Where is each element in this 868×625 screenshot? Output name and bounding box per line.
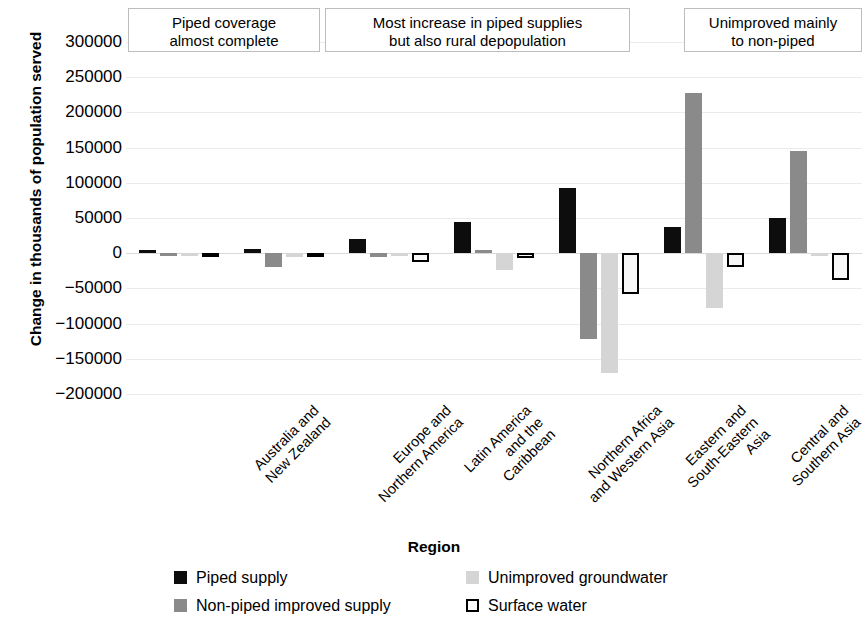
bar-nonpiped — [475, 250, 492, 254]
bar-unimproved — [391, 253, 408, 256]
legend-item[interactable]: Non-piped improved supply — [174, 597, 391, 615]
bar-group — [652, 42, 757, 394]
bar-group — [336, 42, 441, 394]
legend-swatch-icon — [466, 571, 479, 584]
plot-area — [126, 42, 862, 394]
x-tick-label: Eastern andSouth-EasternAsia — [672, 402, 774, 504]
y-tick-label: 50000 — [18, 209, 122, 226]
bar-nonpiped — [580, 253, 597, 339]
x-tick-label: Australia andNew Zealand — [250, 402, 334, 486]
bar-surface — [517, 253, 534, 258]
annotation-box-2: Most increase in piped suppliesbut also … — [325, 8, 630, 52]
bar-group — [441, 42, 546, 394]
annotation-line: Most increase in piped supplies — [332, 14, 623, 32]
bar-piped — [769, 218, 786, 253]
bar-surface — [622, 253, 639, 294]
y-tick-label: 250000 — [18, 68, 122, 85]
y-tick-label: 0 — [18, 244, 122, 261]
bar-group — [757, 42, 862, 394]
bar-surface — [412, 253, 429, 261]
x-tick-label: Northern Africaand Western Asia — [573, 402, 677, 506]
bar-nonpiped — [370, 253, 387, 257]
bar-surface — [727, 253, 744, 267]
annotation-line: Unimproved mainly — [691, 14, 855, 32]
bar-nonpiped — [265, 253, 282, 267]
bar-nonpiped — [790, 151, 807, 253]
annotation-line: to non-piped — [691, 32, 855, 50]
y-tick-label: −150000 — [18, 350, 122, 367]
y-axis-ticks: 300000250000200000150000100000500000−500… — [18, 0, 122, 625]
bar-piped — [349, 239, 366, 253]
bar-nonpiped — [685, 93, 702, 253]
y-tick-label: 300000 — [18, 33, 122, 50]
legend-item[interactable]: Piped supply — [174, 569, 288, 587]
bar-piped — [559, 188, 576, 253]
legend-label: Surface water — [488, 597, 587, 614]
chart-root: Change in thousands of population served… — [0, 0, 868, 625]
y-tick-label: −200000 — [18, 385, 122, 402]
x-axis-title: Region — [0, 538, 868, 556]
bar-nonpiped — [160, 253, 177, 256]
bar-group — [547, 42, 652, 394]
bar-surface — [832, 253, 849, 280]
bar-unimproved — [496, 253, 513, 270]
bar-unimproved — [706, 253, 723, 308]
bar-piped — [244, 249, 261, 253]
annotation-box-1: Piped coveragealmost complete — [128, 8, 320, 52]
y-tick-label: 150000 — [18, 139, 122, 156]
legend-label: Piped supply — [196, 569, 288, 586]
y-tick-label: −100000 — [18, 315, 122, 332]
bar-surface — [202, 253, 219, 257]
bar-piped — [664, 227, 681, 253]
annotation-line: almost complete — [135, 32, 313, 50]
legend-item[interactable]: Surface water — [466, 597, 587, 615]
annotation-line: Piped coverage — [135, 14, 313, 32]
annotation-line: but also rural depopulation — [332, 32, 623, 50]
legend-swatch-icon — [174, 571, 187, 584]
bar-piped — [139, 250, 156, 253]
bar-unimproved — [601, 253, 618, 373]
bar-unimproved — [181, 253, 198, 256]
legend-item[interactable]: Unimproved groundwater — [466, 569, 668, 587]
bar-surface — [307, 253, 324, 257]
bar-unimproved — [286, 253, 303, 257]
x-tick-label: Latin Americaand theCaribbean — [461, 402, 559, 500]
y-tick-label: −50000 — [18, 279, 122, 296]
legend-swatch-icon — [174, 599, 187, 612]
x-tick-label: Central andSouthern Asia — [777, 402, 865, 490]
legend-label: Unimproved groundwater — [488, 569, 668, 586]
legend-swatch-icon — [466, 599, 479, 612]
bar-unimproved — [811, 253, 828, 256]
bar-piped — [454, 222, 471, 254]
legend-label: Non-piped improved supply — [196, 597, 391, 614]
y-tick-label: 200000 — [18, 103, 122, 120]
bar-group — [126, 42, 231, 394]
y-tick-label: 100000 — [18, 174, 122, 191]
annotation-box-3: Unimproved mainlyto non-piped — [684, 8, 862, 52]
chart-legend: Piped supplyNon-piped improved supplyUni… — [0, 567, 868, 625]
x-tick-label: Europe andNorthern America — [363, 402, 467, 506]
bar-group — [231, 42, 336, 394]
gridline — [126, 394, 862, 395]
